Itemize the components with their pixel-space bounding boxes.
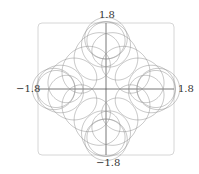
- x-min-label: −1.8: [16, 84, 40, 94]
- x-max-label: 1.8: [178, 84, 194, 94]
- y-min-label: −1.8: [96, 158, 120, 168]
- y-max-label: 1.8: [99, 10, 115, 20]
